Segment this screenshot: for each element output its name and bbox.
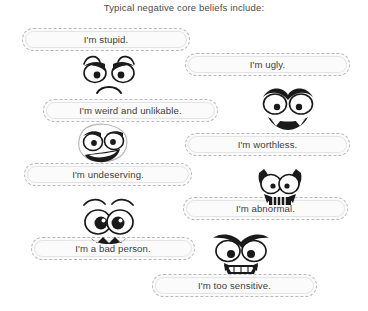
belief-text: I'm undeserving. xyxy=(72,169,144,180)
angry-frown-face-icon xyxy=(78,52,140,99)
belief-bubble-weird: I'm weird and unlikable. xyxy=(43,99,218,122)
smirking-face-icon xyxy=(72,122,134,169)
belief-text: I'm too sensitive. xyxy=(198,280,271,291)
angry-gritted-face-icon xyxy=(210,231,272,278)
horned-grin-face-icon xyxy=(250,161,310,208)
worried-big-eyes-face-icon xyxy=(74,196,142,246)
belief-bubble-stupid: I'm stupid. xyxy=(22,28,190,51)
belief-text: I'm worthless. xyxy=(238,139,298,150)
belief-text: I'm weird and unlikable. xyxy=(79,105,181,116)
page-title: Typical negative core beliefs include: xyxy=(0,2,368,13)
worksheet-page: Typical negative core beliefs include: I… xyxy=(0,0,368,311)
belief-bubble-worthless: I'm worthless. xyxy=(185,133,350,156)
belief-text: I'm stupid. xyxy=(84,34,129,45)
belief-text: I'm ugly. xyxy=(250,59,286,70)
belief-text: I'm a bad person. xyxy=(75,243,151,254)
belief-bubble-ugly: I'm ugly. xyxy=(185,53,350,76)
angry-wide-eyes-face-icon xyxy=(258,86,318,130)
belief-text: I'm abnormal. xyxy=(236,203,295,214)
